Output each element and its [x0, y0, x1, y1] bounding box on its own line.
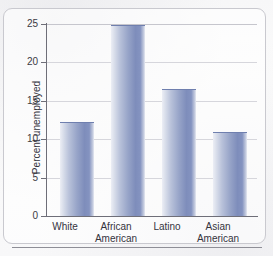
y-tick-mark-15: [41, 101, 46, 102]
x-tick-label-white-line1: White: [52, 221, 78, 232]
x-tick-label-asian-american-line1: Asian: [205, 221, 230, 232]
gridline-20: [46, 62, 257, 63]
bar-latino: [162, 89, 196, 216]
y-tick-mark-20: [41, 62, 46, 63]
x-tick-label-asian-american: Asian American: [190, 221, 246, 245]
y-axis-title-wrap: Percent unemployed: [21, 40, 35, 200]
x-tick-label-latino-line1: Latino: [153, 221, 180, 232]
y-tick-mark-25: [41, 24, 46, 25]
y-tick-mark-10: [41, 139, 46, 140]
y-axis-title: Percent unemployed: [31, 68, 42, 188]
plot-area: [46, 24, 257, 216]
y-tick-label-0: 0: [14, 211, 38, 221]
x-tick-label-latino: Latino: [139, 221, 195, 233]
x-axis-line: [45, 216, 258, 217]
bar-white: [60, 122, 94, 216]
y-tick-mark-5: [41, 178, 46, 179]
x-tick-label-african-american-line2: American: [88, 233, 144, 245]
gridline-25: [46, 24, 257, 25]
x-tick-label-african-american: African American: [88, 221, 144, 245]
bar-asian-american: [213, 132, 247, 216]
gridline-15: [46, 101, 257, 102]
bottom-divider: [12, 247, 262, 248]
bar-african-american: [111, 25, 145, 216]
y-axis-line: [46, 23, 47, 217]
x-tick-label-white: White: [37, 221, 93, 233]
figure-container: 25 20 15 10 5 0 Percent unemployed White…: [0, 0, 273, 256]
x-tick-label-african-american-line1: African: [100, 221, 131, 232]
x-tick-label-asian-american-line2: American: [190, 233, 246, 245]
y-tick-label-25: 25: [14, 19, 38, 29]
y-tick-mark-0: [41, 216, 46, 217]
